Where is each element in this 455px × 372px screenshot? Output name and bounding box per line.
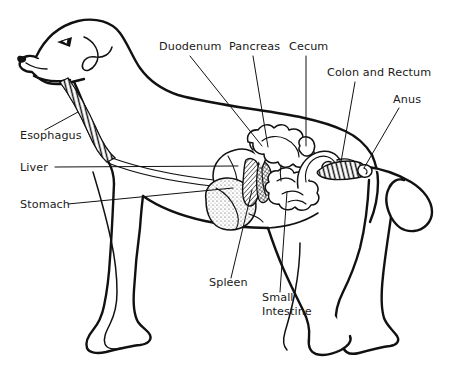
cecum-organ [299,137,315,156]
label-anus: Anus [393,93,421,106]
liver-leader [55,166,238,167]
label-colon-and-rectum: Colon and Rectum [327,66,431,79]
dog-front-leg-near [86,184,150,353]
esophagus-rings [60,78,115,162]
anus-leader [364,108,399,168]
colon-and-rectum-leader [341,82,355,162]
label-liver: Liver [20,161,48,174]
dog-flank-line [268,213,318,228]
label-pancreas: Pancreas [229,40,280,53]
label-small-intestine-line2: Intestine [262,305,312,318]
esophagus-leader [45,112,78,130]
cecum-body [299,137,315,156]
anatomy-diagram-svg: Duodenum Pancreas Cecum Colon and Rectum… [0,0,455,372]
label-cecum: Cecum [289,40,328,53]
label-esophagus: Esophagus [20,129,82,142]
label-duodenum: Duodenum [159,40,221,53]
dog-digestive-system-figure: Duodenum Pancreas Cecum Colon and Rectum… [0,0,455,372]
label-stomach: Stomach [20,198,70,211]
label-small-intestine-line1: Small [262,291,294,304]
label-spleen: Spleen [209,276,248,289]
